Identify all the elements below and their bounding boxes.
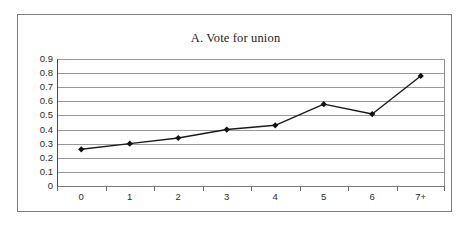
y-axis-tick-label: 0.9 bbox=[19, 54, 53, 64]
x-axis-tick-label: 0 bbox=[61, 191, 101, 203]
x-axis-tick-label: 4 bbox=[255, 191, 295, 203]
x-axis-tick-label: 7+ bbox=[401, 191, 441, 203]
y-axis-tick-label: 0.2 bbox=[19, 153, 53, 163]
x-axis-tick-label: 3 bbox=[207, 191, 247, 203]
y-axis-tick-label: 0.8 bbox=[19, 68, 53, 78]
x-axis-tick-labels: 01234567+ bbox=[57, 191, 445, 207]
y-axis-tick-label: 0.4 bbox=[19, 125, 53, 135]
chart-title: A. Vote for union bbox=[18, 31, 453, 46]
data-point-marker bbox=[127, 141, 133, 147]
x-axis-tick-label: 6 bbox=[352, 191, 392, 203]
y-axis-tick-label: 0.1 bbox=[19, 167, 53, 177]
y-axis-tick-label: 0 bbox=[19, 181, 53, 191]
figure-root: A. Vote for union 0.90.80.70.60.50.40.30… bbox=[0, 0, 468, 229]
y-axis-tick-label: 0.5 bbox=[19, 110, 53, 120]
data-point-marker bbox=[224, 126, 230, 132]
y-axis-tick-label: 0.7 bbox=[19, 82, 53, 92]
data-point-marker bbox=[78, 146, 84, 152]
y-axis-tick-label: 0.6 bbox=[19, 96, 53, 106]
x-axis-tick-label: 2 bbox=[158, 191, 198, 203]
x-axis-tick-label: 5 bbox=[304, 191, 344, 203]
data-point-marker bbox=[321, 101, 327, 107]
y-axis-tick-labels: 0.90.80.70.60.50.40.30.20.10 bbox=[18, 59, 53, 186]
data-point-marker bbox=[175, 135, 181, 141]
x-axis-tick-label: 1 bbox=[110, 191, 150, 203]
series-line bbox=[81, 76, 421, 149]
y-axis-tick-label: 0.3 bbox=[19, 139, 53, 149]
chart-frame: A. Vote for union 0.90.80.70.60.50.40.30… bbox=[17, 14, 452, 212]
plot-area bbox=[57, 59, 445, 186]
data-point-marker bbox=[272, 122, 278, 128]
line-series bbox=[57, 59, 445, 186]
